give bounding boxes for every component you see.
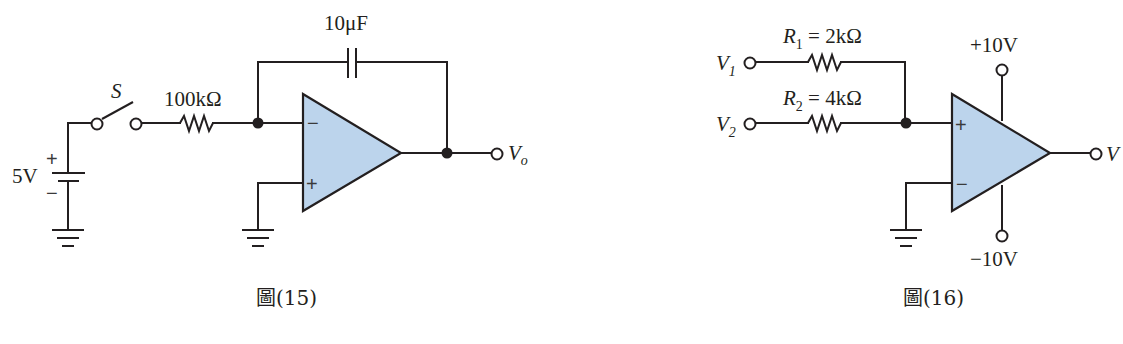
noninverting-input-sign: + <box>955 114 967 136</box>
input-v1-label: V1 <box>716 51 736 79</box>
positive-supply: +10V <box>970 33 1018 120</box>
r1-label: R1 = 2kΩ <box>782 24 862 52</box>
switch-label: S <box>111 79 122 103</box>
opamp-1: − + <box>303 94 401 211</box>
resistor-label: 100kΩ <box>164 87 222 111</box>
noninverting-input-sign: + <box>306 173 318 195</box>
negative-supply: −10V <box>970 186 1018 271</box>
resistor-r1: R1 = 2kΩ <box>782 24 862 70</box>
inverting-input-sign: − <box>956 173 968 195</box>
output-label: V <box>1106 142 1121 166</box>
input-v2-terminal <box>745 119 756 130</box>
figure-15-caption: 圖(15) <box>256 286 317 310</box>
negative-supply-label: −10V <box>970 247 1018 271</box>
input-v1-terminal <box>745 58 756 69</box>
battery-voltage-label: 5V <box>12 164 38 188</box>
r2-label: R2 = 4kΩ <box>782 86 862 114</box>
summing-junction-dot <box>901 118 912 129</box>
figure-16-opamp-circuit: V1 R1 = 2kΩ V2 R2 = 4kΩ +10V <box>716 24 1121 310</box>
ground-icon <box>53 230 83 246</box>
battery-5v: + − 5V <box>12 123 84 230</box>
output-terminal <box>492 149 503 160</box>
battery-minus-sign: − <box>46 182 58 204</box>
figure-15-integrator-circuit: + − 5V S 100kΩ <box>12 11 528 310</box>
resistor-r2: R2 = 4kΩ <box>782 86 862 131</box>
positive-supply-label: +10V <box>970 33 1018 57</box>
ground-icon <box>243 230 273 246</box>
inverting-input-sign: − <box>307 112 319 134</box>
input-v2-label: V2 <box>716 112 736 140</box>
capacitor-10uf: 10μF <box>324 11 368 77</box>
figure-16-caption: 圖(16) <box>903 286 964 310</box>
output-label: Vo <box>508 141 528 168</box>
capacitor-label: 10μF <box>324 11 368 35</box>
battery-plus-sign: + <box>46 148 58 170</box>
output-terminal <box>1091 149 1102 160</box>
switch-s: S <box>92 79 142 130</box>
ground-icon <box>891 230 921 246</box>
resistor-100k: 100kΩ <box>164 87 222 131</box>
output-junction-dot <box>442 148 453 159</box>
